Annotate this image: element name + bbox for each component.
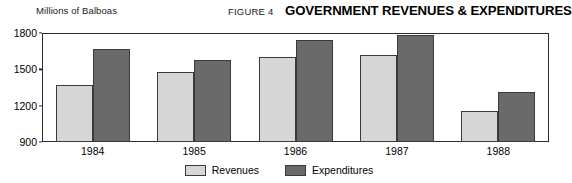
legend-label: Revenues — [212, 164, 259, 176]
x-axis-tick-label: 1985 — [182, 145, 205, 157]
bar-revenues-1988[interactable] — [461, 111, 498, 142]
bars-layer — [42, 33, 549, 142]
y-axis-unit-label: Millions of Balboas — [36, 5, 117, 16]
x-axis: 19841985198619871988 — [42, 143, 549, 159]
x-axis-tick-label: 1986 — [284, 145, 307, 157]
y-axis-tick-label: 1200 — [14, 100, 37, 111]
y-axis-tick-label: 1500 — [14, 64, 37, 75]
chart-header: Millions of Balboas FIGURE 4 GOVERNMENT … — [0, 0, 558, 22]
page-title: GOVERNMENT REVENUES & EXPENDITURES — [285, 3, 572, 18]
bar-expenditures-1984[interactable] — [93, 49, 130, 142]
legend-swatch-expenditures — [285, 165, 306, 176]
bar-group — [157, 33, 231, 142]
bar-expenditures-1985[interactable] — [194, 60, 231, 142]
x-axis-tick-label: 1984 — [81, 145, 104, 157]
bar-revenues-1985[interactable] — [157, 72, 194, 142]
x-axis-tick-label: 1988 — [487, 145, 510, 157]
legend-swatch-revenues — [185, 165, 206, 176]
bar-group — [461, 33, 535, 142]
bar-expenditures-1988[interactable] — [498, 92, 535, 142]
bar-group — [259, 33, 333, 142]
y-axis-tick-label: 1800 — [14, 28, 37, 39]
bar-expenditures-1987[interactable] — [397, 35, 434, 142]
bar-expenditures-1986[interactable] — [296, 40, 333, 142]
bar-revenues-1986[interactable] — [259, 57, 296, 142]
legend-label: Expenditures — [312, 164, 373, 176]
legend-item-expenditures[interactable]: Expenditures — [285, 164, 373, 176]
y-axis: 900120015001800 — [0, 33, 42, 142]
chart-legend: RevenuesExpenditures — [0, 161, 558, 179]
y-axis-tick-label: 900 — [19, 137, 37, 148]
bar-group — [360, 33, 434, 142]
bar-revenues-1984[interactable] — [56, 85, 93, 142]
figure-number-label: FIGURE 4 — [228, 6, 273, 17]
bar-group — [56, 33, 130, 142]
x-axis-tick-label: 1987 — [385, 145, 408, 157]
bar-revenues-1987[interactable] — [360, 55, 397, 142]
legend-item-revenues[interactable]: Revenues — [185, 164, 259, 176]
